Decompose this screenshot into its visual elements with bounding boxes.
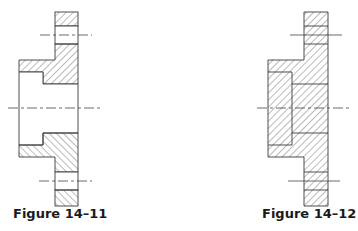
figure-caption: Figure 14–11 [13, 206, 107, 221]
figure-14-11 [8, 12, 103, 206]
figure-caption: Figure 14–12 [262, 206, 356, 221]
figure-14-12 [257, 12, 352, 206]
drawing-canvas [0, 0, 358, 231]
